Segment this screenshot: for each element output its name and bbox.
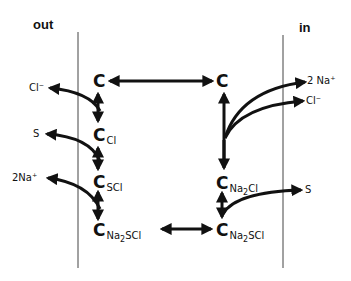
carrier-c-na2scl-left: CNa2SCl: [93, 222, 141, 244]
ion-in-cl: Cl⁻: [306, 96, 321, 106]
carrier-c-na2cl-right: CNa2Cl: [216, 175, 258, 197]
side-label-out: out: [33, 18, 53, 31]
carrier-c-na2scl-right: CNa2SCl: [216, 222, 264, 244]
ion-out-cl: Cl⁻: [29, 83, 44, 93]
side-label-in: in: [299, 21, 311, 34]
carrier-c-top-right: C: [216, 73, 228, 90]
carrier-c-scl: CSCl: [93, 174, 123, 193]
ion-in-s: S: [305, 185, 311, 195]
ion-out-na: 2Na⁺: [12, 173, 37, 183]
carrier-c-cl: CCl: [93, 127, 116, 146]
transport-cycle-diagram: [0, 0, 351, 281]
ion-in-na: 2 Na⁺: [307, 76, 335, 86]
carrier-c-top-left: C: [93, 73, 105, 90]
ion-out-s: S: [33, 129, 39, 139]
